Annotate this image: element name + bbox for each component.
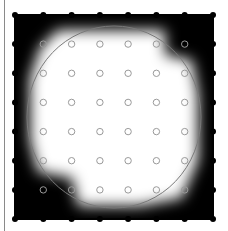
boundary-dot bbox=[210, 70, 216, 76]
boundary-dot bbox=[182, 216, 188, 222]
boundary-dot bbox=[153, 12, 159, 18]
boundary-dot bbox=[210, 158, 216, 164]
boundary-dot bbox=[125, 216, 131, 222]
boundary-dot bbox=[12, 41, 18, 47]
boundary-dot bbox=[40, 12, 46, 18]
boundary-dot bbox=[97, 216, 103, 222]
boundary-dot bbox=[97, 12, 103, 18]
boundary-dot bbox=[12, 187, 18, 193]
boundary-dot bbox=[12, 216, 18, 222]
boundary-dot bbox=[12, 70, 18, 76]
boundary-dot bbox=[210, 12, 216, 18]
boundary-dot bbox=[210, 99, 216, 105]
boundary-dot bbox=[210, 129, 216, 135]
boundary-dot bbox=[153, 216, 159, 222]
boundary-dot bbox=[12, 12, 18, 18]
boundary-dot bbox=[210, 41, 216, 47]
boundary-dot bbox=[12, 99, 18, 105]
boundary-dot bbox=[12, 158, 18, 164]
boundary-dot bbox=[40, 216, 46, 222]
boundary-dot bbox=[210, 216, 216, 222]
boundary-dot bbox=[125, 12, 131, 18]
boundary-dot bbox=[69, 12, 75, 18]
boundary-dot bbox=[210, 187, 216, 193]
boundary-dot bbox=[69, 216, 75, 222]
boundary-dot bbox=[182, 12, 188, 18]
sampling-grid-plot bbox=[0, 0, 228, 231]
boundary-dot bbox=[12, 129, 18, 135]
